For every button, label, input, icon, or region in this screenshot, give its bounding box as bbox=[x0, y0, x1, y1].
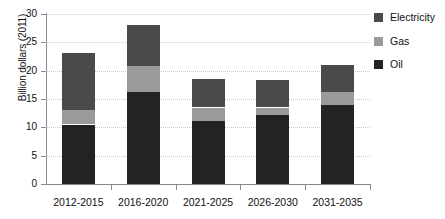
bar-segment-oil[interactable] bbox=[192, 121, 225, 184]
x-tick-mark bbox=[305, 185, 306, 190]
legend-label: Oil bbox=[390, 59, 403, 70]
legend-item[interactable]: Gas bbox=[374, 36, 409, 47]
bar-stack[interactable] bbox=[127, 14, 160, 184]
legend-item[interactable]: Oil bbox=[374, 59, 403, 70]
bar-segment-gas[interactable] bbox=[127, 66, 160, 92]
y-tick-label: 20 bbox=[0, 66, 37, 76]
bar-stack[interactable] bbox=[321, 14, 354, 184]
y-tick-mark bbox=[41, 71, 46, 72]
x-tick-mark bbox=[240, 185, 241, 190]
bar-segment-gas[interactable] bbox=[62, 110, 95, 125]
bar-segment-electricity[interactable] bbox=[192, 79, 225, 108]
bar-segment-gas[interactable] bbox=[256, 108, 289, 115]
legend-item[interactable]: Electricity bbox=[374, 12, 435, 23]
y-tick-mark bbox=[41, 42, 46, 43]
y-tick-label: 25 bbox=[0, 37, 37, 47]
bar-stack[interactable] bbox=[192, 14, 225, 184]
y-tick-mark bbox=[41, 156, 46, 157]
y-tick-mark bbox=[41, 99, 46, 100]
legend-swatch-icon bbox=[374, 13, 383, 22]
y-axis-title: Billion dollars (2011) bbox=[17, 0, 28, 128]
y-tick-label: 30 bbox=[0, 9, 37, 19]
stacked-bar-chart: Billion dollars (2011) 051015202530 2012… bbox=[0, 0, 445, 219]
bar-segment-electricity[interactable] bbox=[127, 25, 160, 66]
y-tick-mark bbox=[41, 184, 46, 185]
bar-segment-gas[interactable] bbox=[192, 108, 225, 121]
legend-swatch-icon bbox=[374, 60, 383, 69]
y-tick-label: 0 bbox=[0, 179, 37, 189]
y-tick-label: 15 bbox=[0, 94, 37, 104]
bar-stack[interactable] bbox=[62, 14, 95, 184]
y-tick-label: 5 bbox=[0, 151, 37, 161]
bar-segment-electricity[interactable] bbox=[62, 53, 95, 110]
legend-label: Gas bbox=[390, 36, 409, 47]
x-tick-label: 2021-2025 bbox=[176, 196, 241, 208]
x-tick-label: 2031-2035 bbox=[305, 196, 370, 208]
y-tick-label: 10 bbox=[0, 122, 37, 132]
x-tick-mark bbox=[370, 185, 371, 190]
x-tick-label: 2016-2020 bbox=[111, 196, 176, 208]
x-tick-mark bbox=[111, 185, 112, 190]
y-tick-mark bbox=[41, 127, 46, 128]
legend-label: Electricity bbox=[390, 12, 435, 23]
bar-segment-oil[interactable] bbox=[256, 115, 289, 184]
bar-segment-oil[interactable] bbox=[62, 125, 95, 185]
bar-stack[interactable] bbox=[256, 14, 289, 184]
x-tick-label: 2012-2015 bbox=[46, 196, 111, 208]
bar-segment-gas[interactable] bbox=[321, 92, 354, 104]
y-tick-mark bbox=[41, 14, 46, 15]
legend-swatch-icon bbox=[374, 37, 383, 46]
bar-segment-oil[interactable] bbox=[321, 105, 354, 184]
bar-segment-electricity[interactable] bbox=[256, 80, 289, 107]
x-tick-label: 2026-2030 bbox=[240, 196, 305, 208]
bar-segment-oil[interactable] bbox=[127, 92, 160, 184]
x-axis-line bbox=[46, 184, 371, 185]
bar-segment-electricity[interactable] bbox=[321, 65, 354, 92]
x-tick-mark bbox=[176, 185, 177, 190]
